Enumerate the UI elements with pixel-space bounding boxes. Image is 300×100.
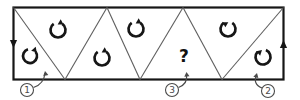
strip-rectangle bbox=[14, 8, 284, 80]
puzzle-diagram: ?132 bbox=[0, 0, 300, 100]
question-mark: ? bbox=[179, 46, 189, 66]
number-label: 1 bbox=[24, 85, 30, 95]
diagram-canvas: ?132 bbox=[0, 0, 300, 100]
number-label: 2 bbox=[265, 86, 271, 96]
number-label: 3 bbox=[169, 85, 175, 95]
